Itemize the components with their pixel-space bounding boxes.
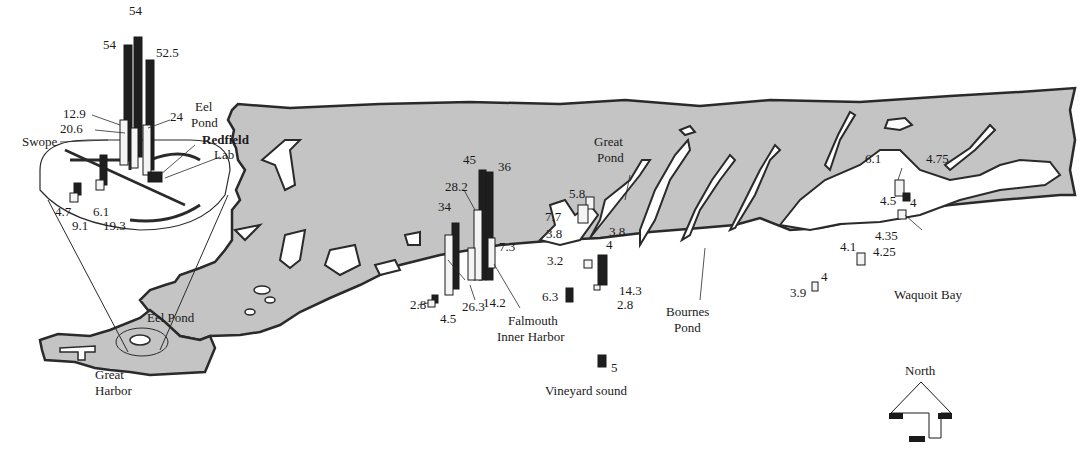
value-label: 24	[170, 110, 183, 123]
value-label: 34	[438, 200, 451, 213]
value-label: 36	[498, 160, 511, 173]
value-label: 14.3	[619, 284, 642, 297]
place-label-falmouth-1: Falmouth	[508, 314, 558, 327]
value-label: 3.2	[547, 254, 563, 267]
value-label: 4.75	[926, 152, 949, 165]
value-label: 52.5	[156, 46, 179, 59]
place-label-bournes-2: Pond	[674, 321, 701, 334]
value-label: 4	[606, 238, 613, 251]
value-label: 7.3	[499, 240, 515, 253]
value-label: 54	[129, 4, 142, 17]
value-label: 26.3	[462, 300, 485, 313]
value-label: 6.3	[542, 290, 558, 303]
value-label: 6.1	[865, 152, 881, 165]
place-label-lab: Lab	[214, 148, 234, 161]
value-label: 20.6	[60, 122, 83, 135]
value-label: 14.2	[483, 296, 506, 309]
place-label-redfield: Redfield	[202, 133, 249, 146]
place-label-swope: Swope	[22, 135, 57, 148]
place-label-eel-pond: Eel Pond	[147, 311, 194, 324]
value-label: 54	[103, 38, 116, 51]
value-label: 19.3	[103, 219, 126, 232]
value-label: 6.1	[93, 205, 109, 218]
value-label: 4.1	[840, 240, 856, 253]
place-label-eel-pond-inset-2: Pond	[191, 116, 218, 129]
place-label-falmouth-2: Inner Harbor	[497, 330, 565, 343]
value-label: 2.8	[410, 298, 426, 311]
value-label: 4.35	[875, 229, 898, 242]
place-label-great-pond-2: Pond	[597, 151, 624, 164]
place-label-eel-pond-inset-1: Eel	[195, 100, 212, 113]
place-label-vineyard-sound: Vineyard sound	[545, 384, 627, 397]
value-label: 45	[463, 153, 476, 166]
place-label-great-harbor-2: Harbor	[95, 384, 132, 397]
north-arrow-icon	[889, 382, 952, 442]
value-label: 4.25	[873, 245, 896, 258]
value-label: 4.7	[55, 205, 71, 218]
north-label: North	[905, 364, 935, 377]
value-label: 12.9	[63, 107, 86, 120]
value-label: 2.8	[617, 298, 633, 311]
value-label: 28.2	[445, 180, 468, 193]
value-label: 3.9	[790, 286, 806, 299]
value-label: 4.5	[440, 312, 456, 325]
value-label: 4.5	[880, 194, 896, 207]
place-label-waquoit: Waquoit Bay	[894, 288, 962, 301]
place-label-bournes-1: Bournes	[666, 305, 709, 318]
value-label: 4	[910, 196, 917, 209]
value-label: 3.8	[546, 227, 562, 240]
value-label: 4	[821, 270, 828, 283]
value-label: 9.1	[72, 219, 88, 232]
value-label: 7.7	[545, 210, 561, 223]
place-label-great-harbor-1: Great	[95, 368, 124, 381]
place-label-great-pond-1: Great	[594, 135, 623, 148]
value-label: 5	[611, 361, 618, 374]
value-label: 5.8	[569, 187, 585, 200]
